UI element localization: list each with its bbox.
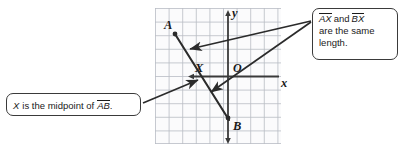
origin-label: O [233,61,242,75]
coordinate-plane-svg: A X B O [155,8,281,144]
point-A-label: A [163,18,172,32]
point-X-label: X [194,61,204,75]
callout-segment-BX: BX [352,13,365,24]
point-B-label: B [232,119,241,133]
callout-period: . [110,100,113,111]
callout-line-3: length. [319,37,348,48]
point-A-dot [173,32,178,37]
point-B-dot [226,116,231,121]
callout-segment-AX: AX [319,13,332,24]
y-axis-label: y [232,6,238,21]
callout-conjunction: and [332,13,352,24]
figure-container: A X B O y x AXandBX are the same length.… [0,0,402,152]
callout-midpoint-text: is the midpoint of [19,100,97,111]
equal-length-callout: AXandBX are the same length. [312,8,398,60]
midpoint-callout: Xis the midpoint ofAB. [6,93,141,116]
x-axis-label: x [281,76,287,91]
callout-line-2: are the same [319,25,374,36]
coordinate-plane: A X B O [155,8,281,144]
callout-segment-AB: AB [97,100,110,111]
